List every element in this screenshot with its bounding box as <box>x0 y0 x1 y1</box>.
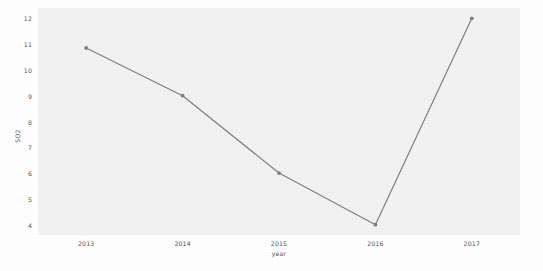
x-tick-label-2013: 2013 <box>78 240 94 247</box>
x-tick-label-2015: 2015 <box>271 240 287 247</box>
y-tick-label-8: 8 <box>28 118 32 125</box>
data-point-markers <box>84 16 473 226</box>
line-chart-svg <box>38 8 520 235</box>
data-point-2016 <box>374 223 378 227</box>
y-tick-label-11: 11 <box>24 41 32 48</box>
data-point-2015 <box>277 171 281 175</box>
x-tick-label-2017: 2017 <box>464 240 480 247</box>
data-point-2017 <box>470 16 474 20</box>
x-tick-label-2014: 2014 <box>174 240 190 247</box>
y-tick-label-10: 10 <box>24 66 32 73</box>
x-tick-label-2016: 2016 <box>367 240 383 247</box>
plot-area <box>38 8 520 235</box>
data-point-2014 <box>181 94 185 98</box>
y-tick-label-5: 5 <box>28 195 32 202</box>
data-point-2013 <box>84 46 88 50</box>
chart-figure: SO2 456789101112 20132014201520162017 ye… <box>0 0 543 271</box>
data-line-so2 <box>86 18 472 224</box>
x-axis-title: year <box>38 250 520 257</box>
y-tick-label-12: 12 <box>24 15 32 22</box>
y-tick-label-6: 6 <box>28 170 32 177</box>
y-tick-label-7: 7 <box>28 144 32 151</box>
y-tick-label-4: 4 <box>28 221 32 228</box>
y-tick-label-9: 9 <box>28 92 32 99</box>
y-axis-tick-labels: 456789101112 <box>0 0 32 271</box>
